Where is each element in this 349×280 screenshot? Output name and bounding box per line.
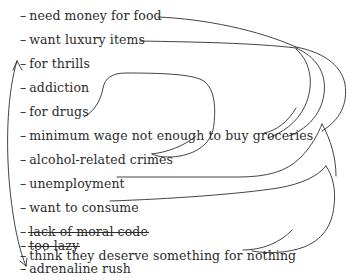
reasons-list-final: – too lazy – adrenaline rush bbox=[0, 0, 349, 280]
diagram-canvas: – need money for food – want luxury item… bbox=[0, 0, 349, 280]
list-item-label-struck: too lazy bbox=[29, 240, 79, 253]
list-item-label: adrenaline rush bbox=[29, 263, 131, 276]
list-item[interactable]: – adrenaline rush bbox=[20, 259, 131, 279]
bullet-dash-icon: – bbox=[20, 263, 26, 276]
list-item[interactable]: – too lazy bbox=[20, 236, 79, 256]
bullet-dash-icon: – bbox=[20, 240, 26, 253]
